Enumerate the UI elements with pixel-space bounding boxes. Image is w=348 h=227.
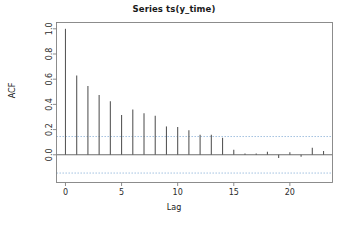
y-tick-label: 0.2 <box>46 123 55 136</box>
y-tick-label: 1.0 <box>46 22 55 35</box>
y-tick-label: 0.0 <box>46 148 55 161</box>
y-tick-label: 0.8 <box>46 48 55 61</box>
y-tick-label: 0.6 <box>46 73 55 86</box>
plot-frame <box>57 23 333 183</box>
y-tick-label: 0.4 <box>46 98 55 111</box>
axes-group <box>53 23 333 187</box>
x-tick-label: 10 <box>173 188 183 197</box>
tick-labels-group: 051015200.00.20.40.60.81.0 <box>46 22 295 197</box>
acf-plot: Series ts(y_time) ACF Lag 051015200.00.2… <box>0 0 348 227</box>
acf-spikes-group <box>57 29 333 158</box>
x-tick-label: 15 <box>229 188 239 197</box>
x-tick-label: 20 <box>285 188 295 197</box>
x-tick-label: 0 <box>63 188 68 197</box>
plot-canvas: 051015200.00.20.40.60.81.0 <box>0 0 348 227</box>
x-tick-label: 5 <box>119 188 124 197</box>
